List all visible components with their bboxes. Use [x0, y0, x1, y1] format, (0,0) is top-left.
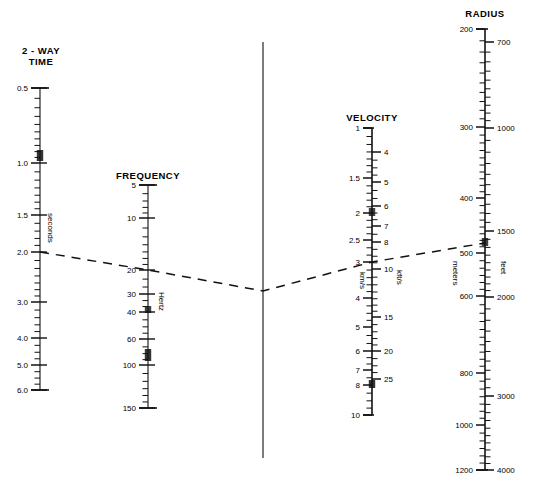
- frequency-tick-30: 30: [127, 290, 136, 299]
- velocity-kfts-tick-4: 4: [384, 148, 388, 157]
- radius-meters-tick-300: 300: [460, 123, 473, 132]
- two-way-time-tick-6_0: 6.0: [17, 386, 28, 395]
- two-way-time-tick-3_0: 3.0: [17, 298, 28, 307]
- radius-feet-tick-4000: 4000: [497, 466, 515, 475]
- axis-title-frequency: FREQUENCY: [106, 170, 190, 181]
- frequency-tick-20: 20: [127, 266, 136, 275]
- nomogram-linework: [0, 0, 533, 498]
- velocity-kfts-tick-6: 6: [384, 202, 388, 211]
- velocity-kms-tick-7: 7: [356, 366, 360, 375]
- radius-feet-tick-1000: 1000: [497, 124, 515, 133]
- two-way-time-tick-2_0: 2.0: [17, 248, 28, 257]
- radius-feet-tick-3000: 3000: [497, 392, 515, 401]
- unit-label-hertz: Hertz: [157, 292, 166, 311]
- velocity-kms-tick-10: 10: [351, 411, 360, 420]
- two-way-time-tick-4_0: 4.0: [17, 334, 28, 343]
- unit-label-kfts: kft/s: [395, 270, 404, 285]
- frequency-tick-10: 10: [127, 214, 136, 223]
- axis-title-velocity: VELOCITY: [332, 112, 412, 123]
- axis-title-two-way-time: 2 - WAY TIME: [10, 45, 72, 67]
- unit-label-meters: meters: [451, 261, 460, 285]
- velocity-kms-tick-5: 5: [356, 323, 360, 332]
- velocity-kfts-tick-10: 10: [384, 265, 393, 274]
- two-way-time-tick-0_5: 0.5: [17, 84, 28, 93]
- velocity-kfts-tick-25: 25: [384, 375, 393, 384]
- axis-frequency: [139, 185, 157, 408]
- velocity-kfts-tick-7: 7: [384, 222, 388, 231]
- axis-title-radius: RADIUS: [452, 8, 518, 19]
- velocity-kfts-tick-20: 20: [384, 347, 393, 356]
- velocity-kfts-tick-5: 5: [384, 178, 388, 187]
- radius-feet-tick-1500: 1500: [497, 227, 515, 236]
- radius-meters-tick-400: 400: [460, 194, 473, 203]
- frequency-tick-60: 60: [127, 335, 136, 344]
- axis-radius: [476, 29, 494, 470]
- radius-meters-tick-800: 800: [460, 369, 473, 378]
- radius-feet-tick-2000: 2000: [497, 293, 515, 302]
- nomogram-figure: 2 - WAY TIME FREQUENCY VELOCITY RADIUS s…: [0, 0, 533, 498]
- velocity-kms-tick-1_5: 1.5: [349, 174, 360, 183]
- radius-feet-tick-700: 700: [497, 38, 510, 47]
- velocity-kfts-tick-8: 8: [384, 238, 388, 247]
- velocity-kfts-tick-15: 15: [384, 313, 393, 322]
- radius-meters-tick-200: 200: [460, 25, 473, 34]
- velocity-kms-tick-3: 3: [356, 258, 360, 267]
- radius-meters-tick-1200: 1200: [455, 466, 473, 475]
- two-way-time-tick-1_0: 1.0: [17, 159, 28, 168]
- two-way-time-tick-5_0: 5.0: [17, 361, 28, 370]
- radius-meters-tick-500: 500: [460, 249, 473, 258]
- velocity-kms-tick-2_5: 2.5: [349, 236, 360, 245]
- frequency-tick-5: 5: [132, 181, 136, 190]
- velocity-kms-tick-6: 6: [356, 347, 360, 356]
- frequency-tick-150: 150: [123, 404, 136, 413]
- velocity-kms-tick-4: 4: [356, 294, 360, 303]
- velocity-kms-tick-8: 8: [356, 381, 360, 390]
- two-way-time-tick-1_5: 1.5: [17, 211, 28, 220]
- frequency-tick-40: 40: [127, 308, 136, 317]
- radius-meters-tick-600: 600: [460, 292, 473, 301]
- velocity-kms-tick-1: 1: [356, 124, 360, 133]
- unit-label-kms: km/s: [358, 272, 367, 289]
- unit-label-seconds: seconds: [46, 213, 55, 243]
- velocity-kms-tick-2: 2: [356, 209, 360, 218]
- radius-meters-tick-1000: 1000: [455, 421, 473, 430]
- unit-label-feet: feet: [499, 261, 508, 274]
- frequency-tick-100: 100: [123, 361, 136, 370]
